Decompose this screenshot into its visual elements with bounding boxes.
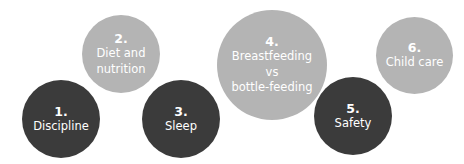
topic-number: 4. [265,34,278,49]
topic-label: Discipline [33,119,89,135]
topic-number: 6. [408,40,421,55]
topic-circle-sleep: 3. Sleep [142,80,220,158]
topic-label: Breastfeeding vs bottle-feeding [231,49,312,96]
topic-number: 3. [174,104,187,119]
topic-circle-discipline: 1. Discipline [22,80,100,158]
topic-circle-breastfeeding: 4. Breastfeeding vs bottle-feeding [217,10,327,120]
topic-label: Safety [335,116,372,132]
topic-circle-diet-nutrition: 2. Diet and nutrition [82,15,160,93]
topic-number: 5. [346,101,359,116]
topic-label: Diet and nutrition [96,46,145,77]
topic-label: Child care [386,55,444,71]
topic-circle-child-care: 6. Child care [376,17,453,94]
topic-circle-safety: 5. Safety [314,77,392,155]
topic-label: Sleep [165,119,197,135]
topic-number: 2. [114,31,127,46]
topic-number: 1. [54,104,67,119]
